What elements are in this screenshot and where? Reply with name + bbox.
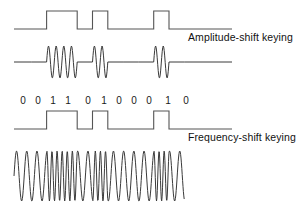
digital-signal-top-path <box>14 11 232 29</box>
bit-label: 0 <box>144 95 154 106</box>
bit-label: 1 <box>63 95 73 106</box>
bit-label: 1 <box>48 95 58 106</box>
fsk-carrier-path <box>14 151 184 201</box>
bit-label: 0 <box>33 95 43 106</box>
digital-signal-bottom-path <box>14 111 232 129</box>
bit-label: 1 <box>99 95 109 106</box>
bit-label: 1 <box>163 95 173 106</box>
fsk-label: Frequency-shift keying <box>188 131 296 143</box>
bit-label: 0 <box>18 95 28 106</box>
ask-label: Amplitude-shift keying <box>188 31 293 43</box>
bit-label: 0 <box>114 95 124 106</box>
bit-label: 0 <box>83 95 93 106</box>
bit-label: 0 <box>181 95 191 106</box>
bit-sequence-labels: 00110100010 <box>0 95 306 109</box>
modulation-diagram: 00110100010 Amplitude-shift keying Frequ… <box>0 0 306 208</box>
bit-label: 0 <box>129 95 139 106</box>
ask-carrier-path <box>14 46 232 78</box>
